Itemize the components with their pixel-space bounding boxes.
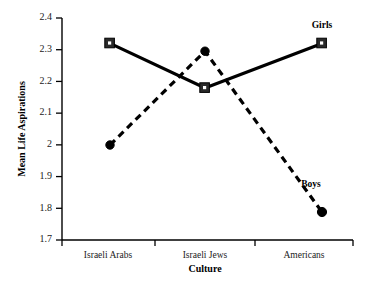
chart-container: 2.4 2.3 2.2 2.1 2 1.9 1.8 1.7 Mean Life … <box>0 0 372 281</box>
y-tick-label: 1.8 <box>40 202 53 213</box>
y-tick-label: 1.9 <box>40 170 53 181</box>
y-tick-label: 2.1 <box>40 106 53 117</box>
y-axis-ticks <box>56 18 62 240</box>
x-tick-label-israeli-arabs: Israeli Arabs <box>84 250 133 260</box>
data-point-girls-israeli-jews-center <box>203 86 206 89</box>
x-axis-title: Culture <box>188 263 222 274</box>
series-label-boys: Boys <box>301 179 321 189</box>
y-tick-label: 2.2 <box>40 75 53 86</box>
y-tick-label: 1.7 <box>40 233 53 244</box>
series-label-girls: Girls <box>312 20 333 30</box>
x-tick-label-israeli-jews: Israeli Jews <box>183 250 228 260</box>
data-point-boys-israeli-jews <box>201 47 209 55</box>
line-chart: 2.4 2.3 2.2 2.1 2 1.9 1.8 1.7 Mean Life … <box>0 0 372 281</box>
series-line-girls <box>110 43 322 88</box>
y-axis-tick-labels: 2.4 2.3 2.2 2.1 2 1.9 1.8 1.7 <box>40 11 53 244</box>
y-axis-title: Mean Life Aspirations <box>16 81 27 177</box>
y-tick-label: 2.3 <box>40 43 53 54</box>
y-tick-label: 2.4 <box>40 11 53 22</box>
data-point-girls-americans-center <box>320 41 323 44</box>
x-tick-label-americans: Americans <box>283 250 324 260</box>
data-point-girls-israeli-arabs-center <box>108 41 111 44</box>
data-point-boys-israeli-arabs <box>106 141 114 149</box>
x-axis-ticks <box>62 240 353 246</box>
y-tick-label: 2 <box>47 138 52 149</box>
data-point-boys-americans <box>317 207 326 216</box>
series-line-boys <box>110 51 322 212</box>
series-markers-boys <box>106 47 327 217</box>
x-axis-tick-labels: Israeli Arabs Israeli Jews Americans <box>84 250 325 260</box>
